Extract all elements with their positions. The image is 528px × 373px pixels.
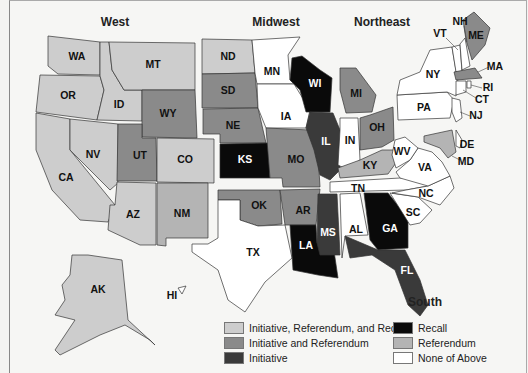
legend-item-none: None of Above — [393, 352, 487, 364]
state-label: IN — [345, 134, 356, 146]
state-shape — [317, 194, 340, 255]
legend-swatch-irr — [224, 322, 244, 334]
state-label: AZ — [126, 208, 141, 220]
state-label: MO — [288, 153, 305, 165]
state-label: ME — [468, 29, 484, 41]
legend-label: Referendum — [418, 337, 476, 349]
state-label: OH — [369, 121, 385, 133]
state-label: MI — [350, 87, 362, 99]
region-label-west: West — [101, 15, 129, 29]
state-wy: WY — [142, 90, 197, 138]
state-ks: KS — [220, 143, 270, 178]
state-label: TN — [351, 182, 365, 194]
legend-item-recall: Recall — [393, 322, 447, 334]
legend-swatch-ir — [224, 337, 244, 349]
state-label: TX — [246, 246, 259, 258]
legend-item-irr: Initiative, Referendum, and Recall — [224, 322, 407, 334]
legend-item-ir: Initiative and Referendum — [224, 337, 369, 349]
state-wa: WA — [48, 36, 100, 75]
legend-label: None of Above — [418, 352, 487, 364]
state-label: WA — [69, 50, 86, 62]
legend-label: Initiative — [249, 352, 288, 364]
legend-swatch-i — [224, 352, 244, 364]
state-label: NE — [226, 119, 241, 131]
state-nj — [452, 98, 462, 122]
state-nm: NM — [157, 183, 208, 246]
state-label: AK — [90, 283, 106, 295]
state-label: CO — [177, 153, 193, 165]
state-label-nh: NH — [452, 15, 467, 27]
state-label: ND — [220, 50, 236, 62]
state-label-de: DE — [460, 138, 475, 150]
state-label: GA — [382, 222, 398, 234]
state-label-ma: MA — [487, 60, 504, 72]
state-label: NC — [418, 187, 434, 199]
state-ct — [456, 81, 466, 95]
state-label: ID — [114, 98, 125, 110]
region-label-south: South — [408, 295, 442, 309]
state-shape — [456, 81, 466, 95]
legend-item-i: Initiative — [224, 352, 288, 364]
state-shape — [467, 81, 471, 88]
legend-label: Initiative, Referendum, and Recall — [249, 322, 407, 334]
state-ny: NY — [397, 47, 458, 96]
state-mt: MT — [109, 42, 195, 90]
state-label: SC — [406, 206, 421, 218]
state-label: WY — [160, 107, 177, 119]
legend-label: Recall — [418, 322, 447, 334]
state-label: HI — [167, 289, 178, 301]
state-mi: MI — [340, 68, 376, 113]
legend-label: Initiative and Referendum — [249, 337, 369, 349]
state-label: MT — [145, 58, 161, 70]
state-label-ri: RI — [483, 81, 494, 93]
legend-swatch-recall — [393, 322, 413, 334]
state-ri — [467, 81, 471, 88]
legend-swatch-ref — [393, 337, 413, 349]
state-shape — [55, 255, 155, 355]
state-label-nj: NJ — [469, 109, 483, 121]
state-label: IL — [321, 135, 331, 147]
legend-item-ref: Referendum — [393, 337, 476, 349]
state-co: CO — [157, 138, 214, 183]
state-hi: HI — [167, 286, 186, 301]
region-label-northeast: Northeast — [354, 15, 410, 29]
state-label: LA — [299, 239, 313, 251]
state-label: NY — [426, 68, 441, 80]
state-ne: NE — [203, 108, 266, 143]
state-label: FL — [401, 264, 414, 276]
state-ms: MS — [317, 194, 340, 255]
state-label: AL — [349, 223, 364, 235]
state-label: WI — [309, 77, 322, 89]
legend-swatch-none — [393, 352, 413, 364]
state-ar: AR — [280, 189, 320, 225]
state-label: NV — [86, 148, 101, 160]
state-label-ct: CT — [475, 93, 490, 105]
state-az: AZ — [108, 182, 156, 245]
state-ak: AK — [55, 255, 155, 355]
state-label: AR — [295, 204, 311, 216]
state-label: KY — [363, 159, 378, 171]
state-label: OR — [60, 89, 76, 101]
state-label: SD — [221, 84, 236, 96]
region-label-midwest: Midwest — [252, 15, 299, 29]
state-label: VA — [418, 161, 432, 173]
state-label: WV — [394, 145, 411, 157]
state-label: PA — [417, 101, 431, 113]
state-shape — [452, 98, 462, 122]
state-nd: ND — [202, 39, 255, 74]
state-label: MN — [264, 65, 280, 77]
state-label: UT — [133, 149, 148, 161]
state-sd: SD — [202, 73, 258, 108]
leader-line — [471, 85, 482, 88]
state-oh: OH — [360, 107, 394, 150]
state-label: OK — [251, 199, 267, 211]
state-label: NM — [174, 207, 191, 219]
state-label: IA — [281, 110, 292, 122]
state-label: KS — [238, 153, 253, 165]
state-label-vt: VT — [433, 27, 447, 39]
state-shape — [178, 286, 186, 294]
state-pa: PA — [397, 92, 454, 120]
state-label-md: MD — [458, 155, 475, 167]
state-label: MS — [320, 226, 336, 238]
